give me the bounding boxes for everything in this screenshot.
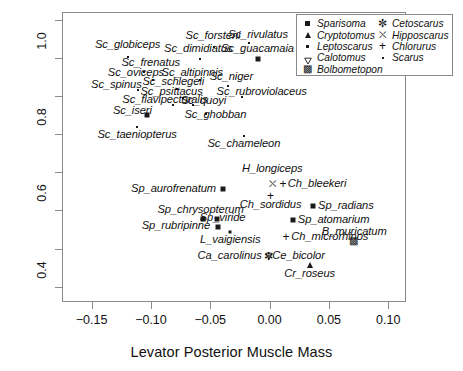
data-point-label: Sc_guacamaia [221,42,294,54]
legend-entry: Calotomus [302,52,383,63]
data-point-marker [291,218,296,223]
legend-entry: Leptoscarus [302,41,383,52]
data-point-label: Sp_atomarium [298,213,370,225]
legend-label: Hipposcarus [392,30,449,41]
legend-marker [302,32,313,38]
data-point-label: Sc_spinus [91,78,142,90]
y-tick-label: 0.8 [35,101,49,133]
marker-asterisk-star-icon: ✼ [378,18,387,29]
legend-label: Calotomus [317,52,366,63]
x-tick-mark [270,302,271,309]
marker-filled-square-icon [305,21,310,26]
legend-label: Cetoscarus [392,18,444,29]
x-tick-label: −0.15 [76,313,108,327]
y-tick-mark-minor [55,96,62,97]
data-point-marker [311,203,316,208]
y-tick-mark-major [55,210,62,211]
y-tick-mark-major [55,134,62,135]
y-axis-title: Jaw Closing Mechanical Advantage [4,0,20,16]
y-tick-label: 0.6 [35,177,49,209]
x-tick-mark [151,302,152,309]
y-tick-mark-minor [55,172,62,173]
marker-tiny-dot-icon [382,57,384,59]
marker-open-triangle-down-icon [305,55,311,61]
data-point-label: Sc_rubroviolaceus [217,85,307,97]
data-point-label: Ca_carolinus [198,249,262,261]
data-point-label: Cr_roseus [284,267,335,279]
x-tick-mark [92,302,93,309]
legend-entry: Sparisoma [302,18,383,29]
data-point-label: B_muricatum [322,225,387,237]
marker-plus-icon: + [379,39,386,53]
x-tick-label: 0.05 [317,313,341,327]
legend-entry: ▩Bolbometopon [302,64,383,75]
data-point-label: Sc_taeniopterus [97,128,176,140]
y-tick-mark-major [55,287,62,288]
x-tick-label: −0.05 [194,313,226,327]
marker-crossed-square-icon: ▩ [303,64,312,74]
data-point-marker: ⛌ [269,179,276,189]
legend-entry: Scarus [377,52,449,63]
data-point-marker: ✼ [264,250,273,261]
y-tick-mark-minor [55,249,62,250]
data-point-label: Sc_ghobban [185,108,247,120]
legend-entry: Cryptotomus [302,29,383,40]
legend-label: Chlorurus [392,41,436,52]
legend-label: Scarus [392,52,424,63]
data-point-label: L_vaigiensis [200,233,260,245]
x-tick-mark [210,302,211,309]
x-tick-label: 0.10 [376,313,400,327]
data-point-label: Sc_flavipectoralis [122,93,207,105]
x-tick-mark [388,302,389,309]
y-tick-mark-minor [55,20,62,21]
data-point-label: Sc_iseri [113,104,152,116]
data-point-marker: + [280,178,287,190]
legend-marker: + [377,39,388,53]
data-point-label: Sp_rubripinne [142,219,210,231]
data-point-label: Ce_bicolor [272,249,324,261]
data-point-label: Ch_sordidus [240,198,302,210]
data-point-label: Sp_radians [318,199,374,211]
legend-label: Leptoscarus [317,41,373,52]
legend-label: Cryptotomus [317,30,375,41]
legend-entry: ✼Cetoscarus [377,18,449,29]
x-tick-mark [329,302,330,309]
legend-box: SparisomaCryptotomusLeptoscarusCalotomus… [296,14,453,76]
data-point-label: Sc_rivulatus [228,28,288,40]
legend-marker [302,45,313,48]
legend-entry: +Chlorurus [377,41,449,52]
scatter-plot-figure: Jaw Closing Mechanical Advantage Levator… [0,0,463,371]
data-point-label: Sc_niger [210,70,253,82]
data-point-marker [220,186,225,191]
y-axis-title-container: Jaw Closing Mechanical Advantage [0,0,28,310]
data-point-marker [199,58,201,60]
legend-label: Bolbometopon [317,64,383,75]
data-point-marker [255,56,260,61]
data-point-marker: + [282,231,289,243]
legend-marker [377,57,388,59]
legend-marker: ✼ [377,18,388,29]
data-point-marker [216,225,221,230]
legend-marker: ▩ [302,64,313,74]
legend-marker [302,55,313,61]
data-point-label: Sp_aurofrenatum [131,182,216,194]
data-point-label: Sc_globiceps [95,38,160,50]
x-axis-title: Levator Posterior Muscle Mass [0,344,463,360]
legend-label: Sparisoma [317,18,366,29]
legend-marker [302,21,313,26]
y-tick-label: 0.4 [35,254,49,286]
y-tick-label: 1.0 [35,25,49,57]
x-tick-label: 0.00 [257,313,281,327]
legend-column-left: SparisomaCryptotomusLeptoscarusCalotomus… [302,18,383,75]
data-point-label: Sc_chameleon [207,137,280,149]
y-tick-mark-major [55,58,62,59]
legend-column-right: ✼Cetoscarus⛌Hipposcarus+ChlorurusScarus [377,18,449,64]
data-point-label: H_longiceps [242,162,302,174]
marker-filled-triangle-up-icon [305,32,311,38]
marker-small-filled-square-icon [306,45,309,48]
x-tick-label: −0.10 [135,313,167,327]
data-point-label: Ch_bleekeri [288,177,347,189]
